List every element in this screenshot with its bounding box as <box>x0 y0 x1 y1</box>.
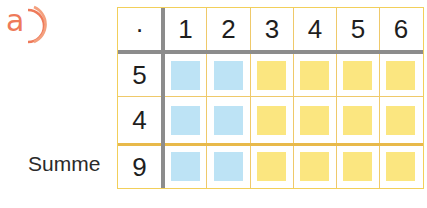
yellow-square <box>343 61 372 90</box>
yellow-square <box>300 152 329 181</box>
yellow-square <box>257 152 286 181</box>
blue-square <box>171 106 200 135</box>
blue-square <box>214 152 243 181</box>
exercise-arc-icon <box>4 4 54 44</box>
row-value: 5 <box>118 54 161 96</box>
operator-cell: · <box>118 8 161 50</box>
blue-square <box>214 61 243 90</box>
header-divider-horizontal <box>118 50 423 54</box>
row-value: 4 <box>118 97 161 143</box>
blue-square <box>171 61 200 90</box>
column-header: 4 <box>294 8 336 50</box>
multiplication-table: · 1 2 3 4 5 6 5 4 9 <box>117 7 424 189</box>
yellow-square <box>386 61 415 90</box>
yellow-square <box>343 152 372 181</box>
row-label-summe: Summe <box>28 152 100 176</box>
exercise-label: a <box>4 4 54 44</box>
column-header: 5 <box>337 8 379 50</box>
yellow-square <box>257 61 286 90</box>
blue-square <box>171 152 200 181</box>
column-header: 3 <box>251 8 293 50</box>
yellow-square <box>386 106 415 135</box>
yellow-square <box>257 106 286 135</box>
column-header: 2 <box>207 8 250 50</box>
yellow-square <box>343 106 372 135</box>
yellow-square <box>300 106 329 135</box>
yellow-square <box>300 61 329 90</box>
row-value: 9 <box>118 146 161 188</box>
column-header: 1 <box>165 8 206 50</box>
yellow-square <box>386 152 415 181</box>
blue-square <box>214 106 243 135</box>
column-header: 6 <box>380 8 422 50</box>
